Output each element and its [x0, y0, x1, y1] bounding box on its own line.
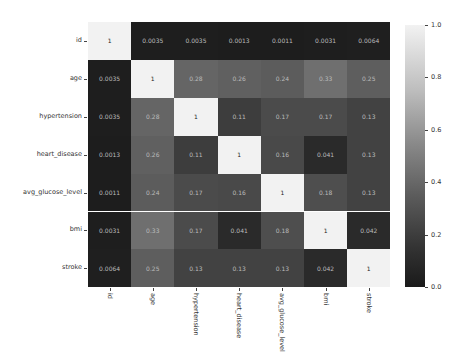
x-axis-label: avg_glucose_level	[278, 293, 286, 352]
x-axis-tick	[282, 288, 283, 291]
x-axis-tick	[369, 288, 370, 291]
heatmap-cell: 0.33	[304, 60, 347, 98]
x-axis-tick	[110, 288, 111, 291]
heatmap-cell: 0.13	[347, 174, 390, 212]
y-axis-label: id	[2, 36, 82, 44]
y-axis-tick	[84, 79, 87, 80]
colorbar-tick	[425, 130, 428, 131]
y-axis-label: avg_glucose_level	[2, 188, 82, 196]
heatmap-cell: 0.13	[347, 136, 390, 174]
heatmap-cell: 0.25	[131, 249, 174, 287]
heatmap-cell: 0.0064	[347, 22, 390, 60]
y-axis-label: hypertension	[2, 112, 82, 120]
heatmap-cell: 1	[304, 212, 347, 250]
heatmap-cell: 1	[88, 22, 131, 60]
heatmap-cell: 0.16	[218, 174, 261, 212]
x-axis-label: bmi	[322, 293, 330, 305]
heatmap-cell: 0.042	[347, 212, 390, 250]
x-axis-tick	[153, 288, 154, 291]
y-axis-tick	[84, 193, 87, 194]
heatmap-cell: 0.16	[261, 136, 304, 174]
heatmap-cell: 0.13	[347, 98, 390, 136]
colorbar-tick-label: 0.4	[431, 178, 441, 186]
y-axis-tick	[84, 41, 87, 42]
heatmap-cell: 0.13	[174, 249, 217, 287]
heatmap-cell: 1	[174, 98, 217, 136]
y-axis-tick	[84, 117, 87, 118]
heatmap-cell: 0.28	[131, 98, 174, 136]
colorbar-tick-label: 0.6	[431, 126, 441, 134]
colorbar-tick-label: 0.8	[431, 73, 441, 81]
heatmap-cell: 0.0035	[131, 22, 174, 60]
x-axis-label: id	[106, 293, 114, 299]
y-axis-tick	[84, 230, 87, 231]
colorbar-tick-label: 0.0	[431, 283, 441, 291]
heatmap-cell: 0.13	[218, 249, 261, 287]
colorbar-tick	[425, 182, 428, 183]
x-axis-label: stroke	[365, 293, 373, 313]
heatmap-cell: 0.042	[304, 249, 347, 287]
y-axis-label: bmi	[2, 225, 82, 233]
heatmap-cell: 0.0011	[261, 22, 304, 60]
colorbar-tick	[425, 25, 428, 26]
y-axis-tick	[84, 268, 87, 269]
heatmap-cell: 0.0031	[88, 212, 131, 250]
y-axis-label: age	[2, 74, 82, 82]
heatmap-cell: 0.0013	[88, 136, 131, 174]
x-axis-tick	[196, 288, 197, 291]
heatmap-cell: 0.11	[218, 98, 261, 136]
colorbar-tick-label: 0.2	[431, 231, 441, 239]
heatmap-cell: 0.0013	[218, 22, 261, 60]
heatmap-cell: 0.17	[174, 174, 217, 212]
heatmap-cell: 1	[131, 60, 174, 98]
heatmap-cell: 0.17	[261, 98, 304, 136]
heatmap-cell: 1	[218, 136, 261, 174]
heatmap-cell: 0.041	[304, 136, 347, 174]
heatmap-cell: 1	[261, 174, 304, 212]
heatmap-cell: 0.11	[174, 136, 217, 174]
heatmap-cell: 0.24	[131, 174, 174, 212]
x-axis-label: age	[149, 293, 157, 305]
y-axis-tick	[84, 155, 87, 156]
heatmap-cell: 0.26	[218, 60, 261, 98]
colorbar-tick	[425, 287, 428, 288]
colorbar-tick	[425, 235, 428, 236]
heatmap-cell: 0.18	[304, 174, 347, 212]
heatmap-cell: 0.26	[131, 136, 174, 174]
heatmap-cell: 0.0035	[88, 60, 131, 98]
heatmap-cell: 0.17	[174, 212, 217, 250]
y-axis-label: stroke	[2, 263, 82, 271]
heatmap-cell: 0.25	[347, 60, 390, 98]
colorbar-tick-label: 1.0	[431, 21, 441, 29]
heatmap-cell: 0.33	[131, 212, 174, 250]
x-axis-tick	[239, 288, 240, 291]
x-axis-label: heart_disease	[235, 293, 243, 338]
heatmap-cell: 0.041	[218, 212, 261, 250]
heatmap-cell: 0.24	[261, 60, 304, 98]
y-axis-label: heart_disease	[2, 150, 82, 158]
heatmap-cell: 1	[347, 249, 390, 287]
heatmap-cell: 0.18	[261, 212, 304, 250]
x-axis-label: hypertension	[192, 293, 200, 336]
colorbar	[405, 25, 425, 287]
colorbar-tick	[425, 77, 428, 78]
heatmap-cell: 0.17	[304, 98, 347, 136]
heatmap-cell: 0.0031	[304, 22, 347, 60]
x-axis-tick	[326, 288, 327, 291]
heatmap-cell: 0.0064	[88, 249, 131, 287]
heatmap-cell: 0.0035	[174, 22, 217, 60]
heatmap-cell: 0.13	[261, 249, 304, 287]
heatmap-cell: 0.0011	[88, 174, 131, 212]
correlation-heatmap: idagehypertensionheart_diseaseavg_glucos…	[0, 0, 464, 353]
heatmap-cell: 0.28	[174, 60, 217, 98]
heatmap-cell: 0.0035	[88, 98, 131, 136]
